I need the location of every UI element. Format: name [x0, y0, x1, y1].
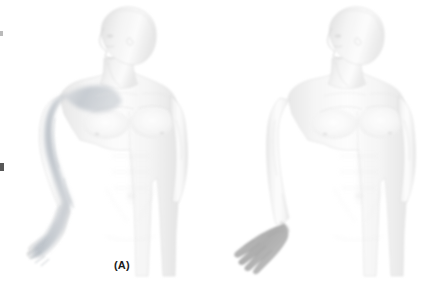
panel-label-a: (A) [114, 259, 130, 271]
scan-edge-artifact-upper [0, 31, 3, 36]
figure-panel-a: (A) [0, 0, 220, 300]
figure-b-body [288, 72, 407, 276]
anatomy-figure-root: (A) [0, 0, 440, 300]
figure-b-head [328, 7, 384, 65]
scan-edge-artifact-lower [0, 163, 4, 171]
figure-a-illustration [0, 0, 220, 300]
figure-panel-b: (B) [220, 0, 440, 300]
figure-b-near-arm [267, 98, 290, 224]
figure-a-head [100, 7, 156, 65]
figure-b-illustration [220, 0, 440, 300]
figure-b-hand-shading [235, 222, 289, 274]
